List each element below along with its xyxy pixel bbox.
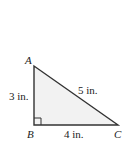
vertex-label-c: C <box>114 128 122 140</box>
vertex-label-a: A <box>24 54 32 66</box>
side-label-bc: 4 in. <box>64 128 84 140</box>
vertex-label-b: B <box>27 128 34 140</box>
triangle-abc <box>34 66 118 125</box>
side-label-ac: 5 in. <box>78 84 98 96</box>
triangle-diagram: A B C 3 in. 4 in. 5 in. <box>0 0 138 143</box>
side-label-ab: 3 in. <box>9 90 29 102</box>
